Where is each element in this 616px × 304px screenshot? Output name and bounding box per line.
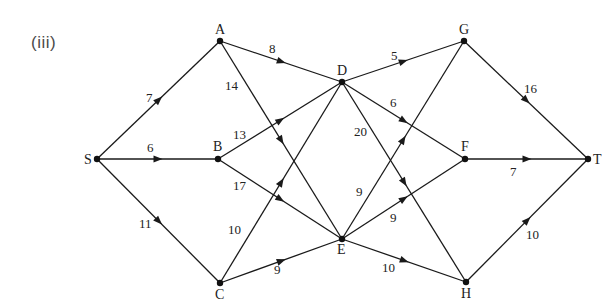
edge-weight-label: 9 [356, 184, 363, 199]
nodes-layer: SABCDEFGHT [84, 22, 602, 302]
arrow-icon [398, 196, 407, 204]
node-label: F [461, 139, 469, 154]
edge-e-h: 10 [342, 239, 466, 282]
edge-d-h: 20 [342, 82, 466, 282]
arrow-icon [276, 135, 284, 144]
edge-weight-label: 7 [510, 164, 517, 179]
edge-weight-label: 17 [233, 178, 247, 193]
edge-weight-label: 5 [391, 48, 398, 63]
edge-weight-label: 11 [139, 216, 152, 231]
node-dot [215, 156, 221, 162]
node-label: A [215, 22, 226, 37]
node-h: H [461, 279, 471, 301]
edge-a-d: 8 [220, 41, 342, 82]
edge-weight-label: 6 [147, 140, 154, 155]
node-dot [462, 156, 468, 162]
network-diagram: 761181413171095620991016710 SABCDEFGHT [0, 0, 616, 304]
edge-s-a: 7 [97, 41, 220, 159]
edge-weight-label: 14 [225, 78, 239, 93]
node-dot [217, 280, 223, 286]
arrow-icon [398, 115, 407, 123]
node-dot [339, 79, 345, 85]
edge-weight-label: 10 [526, 227, 539, 242]
node-label: T [593, 152, 602, 167]
edge-e-f: 9 [342, 159, 465, 239]
edge-weight-label: 20 [354, 124, 367, 139]
arrow-icon [399, 177, 407, 186]
arrow-icon [399, 256, 409, 263]
node-dot [217, 38, 223, 44]
arrow-icon [276, 178, 284, 188]
node-e: E [337, 236, 346, 257]
node-t: T [585, 152, 602, 167]
node-g: G [459, 22, 469, 44]
arrow-icon [398, 59, 408, 66]
edge-s-b: 6 [97, 140, 218, 163]
edge-weight-label: 16 [524, 81, 538, 96]
node-a: A [215, 22, 226, 44]
node-label: E [337, 242, 346, 257]
edge-g-t: 16 [464, 41, 588, 159]
node-dot [585, 156, 591, 162]
node-label: C [215, 287, 224, 302]
edge-f-t: 7 [465, 156, 588, 180]
edge-b-d: 13 [218, 82, 342, 159]
edge-weight-label: 13 [233, 127, 246, 142]
node-label: S [84, 152, 92, 167]
node-d: D [337, 63, 347, 85]
edge-weight-label: 10 [382, 260, 395, 275]
edge-e-g: 9 [342, 41, 464, 239]
arrow-icon [276, 57, 286, 64]
node-label: B [213, 139, 222, 154]
edge-weight-label: 9 [274, 262, 281, 277]
node-dot [94, 156, 100, 162]
edge-weight-label: 7 [146, 90, 153, 105]
node-s: S [84, 152, 100, 167]
arrow-icon [154, 156, 163, 163]
arrow-icon [275, 194, 284, 202]
arrow-icon [523, 156, 532, 163]
node-dot [461, 38, 467, 44]
edge-weight-label: 9 [390, 210, 397, 225]
node-label: G [459, 22, 469, 37]
edge-d-f: 6 [342, 82, 465, 159]
edge-weight-label: 8 [269, 41, 276, 56]
node-f: F [461, 139, 469, 162]
node-label: D [337, 63, 347, 78]
edge-s-c: 11 [97, 159, 220, 283]
node-label: H [461, 286, 471, 301]
arrow-icon [398, 136, 406, 145]
node-c: C [215, 280, 224, 302]
node-dot [463, 279, 469, 285]
edge-c-e: 9 [220, 239, 342, 283]
edge-weight-label: 10 [228, 222, 241, 237]
edge-weight-label: 6 [390, 95, 397, 110]
edge-h-t: 10 [466, 159, 588, 282]
arrow-icon [275, 118, 284, 126]
edge-d-g: 5 [342, 41, 464, 82]
